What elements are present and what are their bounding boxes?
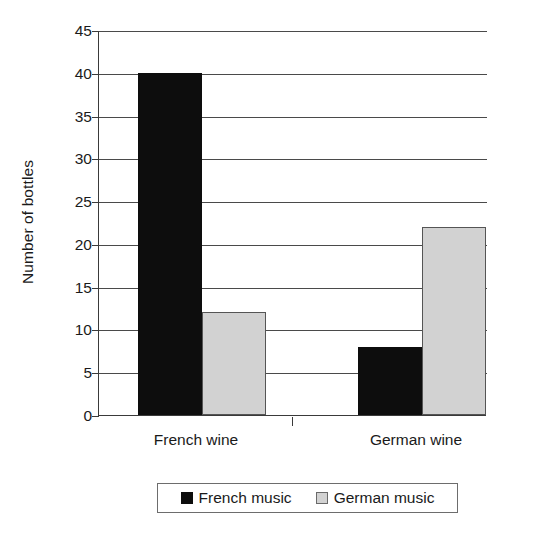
y-tick-label: 10 (52, 322, 92, 338)
x-category-label: German wine (336, 430, 496, 450)
legend-item: French music (181, 489, 292, 507)
gridline (99, 31, 487, 32)
y-tick-label: 5 (52, 365, 92, 381)
y-tick-label: 20 (52, 237, 92, 253)
y-tick-mark (92, 416, 99, 417)
legend-swatch-icon (316, 492, 328, 504)
y-axis-ticks: 051015202530354045 (0, 0, 92, 539)
y-tick-label: 25 (52, 194, 92, 210)
legend-label: German music (334, 489, 435, 507)
legend-item: German music (316, 489, 435, 507)
y-tick-label: 15 (52, 280, 92, 296)
plot-area (98, 31, 486, 416)
y-tick-label: 35 (52, 109, 92, 125)
y-tick-label: 0 (52, 408, 92, 424)
y-tick-label: 40 (52, 66, 92, 82)
bar-french-wine-french-music (138, 73, 202, 415)
y-tick-label: 30 (52, 151, 92, 167)
bar-german-wine-german-music (422, 227, 486, 415)
legend-swatch-icon (181, 492, 193, 504)
x-category-label: French wine (116, 430, 276, 450)
y-tick-label: 45 (52, 23, 92, 39)
legend-label: French music (199, 489, 292, 507)
bar-chart: Number of bottles 051015202530354045 Fre… (0, 0, 546, 539)
legend: French musicGerman music (157, 483, 458, 513)
x-tick-mark (292, 417, 293, 426)
bar-french-wine-german-music (202, 312, 266, 415)
bar-german-wine-french-music (358, 347, 422, 415)
